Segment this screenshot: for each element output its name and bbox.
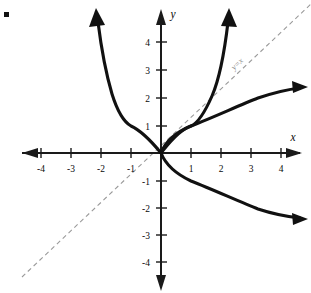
x-tick-label--3: -3 xyxy=(67,164,75,174)
y-tick-label-2: 2 xyxy=(145,94,150,104)
x-tick-label-1: 1 xyxy=(189,164,194,174)
graph-figure: -4 -3 -2 -1 1 2 3 4 4 3 2 1 -1 -2 xyxy=(0,0,311,293)
bullet-marker-icon xyxy=(4,12,9,17)
x-tick-label-2: 2 xyxy=(219,164,224,174)
x-tick-label--4: -4 xyxy=(37,164,45,174)
coordinate-plane-svg: -4 -3 -2 -1 1 2 3 4 4 3 2 1 -1 -2 xyxy=(0,0,311,293)
y-axis-label: y xyxy=(169,8,176,21)
y-tick-label--2: -2 xyxy=(142,204,150,214)
y-tick-label-1: 1 xyxy=(145,122,150,132)
x-tick-label--1: -1 xyxy=(127,164,135,174)
y-tick-label--4: -4 xyxy=(142,258,150,268)
y-tick-label--3: -3 xyxy=(142,231,150,241)
x-tick-label-4: 4 xyxy=(279,164,284,174)
y-tick-label-3: 3 xyxy=(145,66,150,76)
x-tick-label--2: -2 xyxy=(97,164,105,174)
y-tick-label-4: 4 xyxy=(145,38,150,48)
x-axis-label: x xyxy=(289,131,296,143)
y-tick-label--1: -1 xyxy=(142,177,150,187)
x-tick-label-3: 3 xyxy=(249,164,254,174)
